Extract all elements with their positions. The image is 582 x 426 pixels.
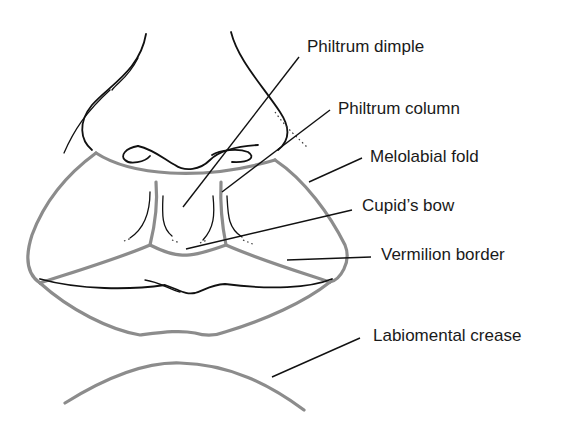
label-cupids-bow: Cupid’s bow [362,197,454,214]
upper-lip-outline [28,153,347,283]
nose-outline [64,32,308,169]
label-philtrum-column: Philtrum column [338,100,460,117]
lower-lip-outline [40,279,332,335]
label-vermilion-border: Vermilion border [381,246,505,263]
labiomental-crease-curve [65,363,304,410]
label-melolabial-fold: Melolabial fold [370,148,479,165]
diagram-drawing [0,0,582,426]
label-philtrum-dimple: Philtrum dimple [307,38,424,55]
label-labiomental-crease: Labiomental crease [373,327,521,344]
lip-anatomy-diagram: Philtrum dimple Philtrum column Melolabi… [0,0,582,426]
